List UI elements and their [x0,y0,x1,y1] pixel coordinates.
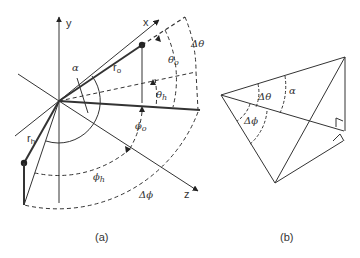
z-axis [59,101,198,191]
theta-o-label: θo [168,54,179,67]
phi-o-label: ϕo [135,120,147,133]
x-axis-label: x [143,16,149,28]
phi-o-arc [129,112,142,150]
delta-phi-label: Δϕ [138,189,153,200]
delta-theta-label: Δθ [190,38,204,49]
x-axis [59,20,159,101]
theta-h-label: θh [156,89,167,102]
z-axis-label: z [184,188,190,200]
delta-theta-label-b: Δθ [257,91,271,102]
r-o-label: ro [113,61,122,75]
phi-h-arc [35,149,130,176]
caption-a: (a) [95,231,108,243]
projection-line [59,101,200,110]
alpha-label-b: α [289,85,296,96]
caption-b: (b) [280,231,293,243]
y-axis-label: y [66,17,72,29]
alpha-arc-b [280,76,286,113]
figure-a [15,17,200,209]
alpha-label: α [72,62,79,73]
delta-phi-label-b: Δϕ [243,115,258,126]
figure-b [221,57,345,183]
r-h-label: rh [27,132,35,146]
figure-canvas: y x z ro rh α θo θh Δθ ϕo ϕh Δϕ (a) Δθ α… [0,0,360,258]
phi-h-label: ϕh [93,171,105,184]
